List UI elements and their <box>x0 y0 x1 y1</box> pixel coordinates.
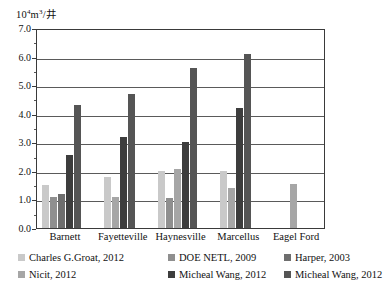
x-axis-category-label: Fayetteville <box>98 231 148 243</box>
bar <box>104 177 111 228</box>
y-axis-tick-label: 1.0 <box>1 195 31 205</box>
bar <box>158 171 165 228</box>
legend-item[interactable]: Micheal Wang, 2012 <box>284 269 384 280</box>
y-axis-tick-label: 2.0 <box>1 167 31 177</box>
bar <box>58 194 65 228</box>
y-axis-major-tick <box>32 229 36 230</box>
legend-item[interactable]: Micheal Wang, 2012 <box>168 269 284 280</box>
y-axis-unit-per-well: /井 <box>43 9 56 20</box>
bar <box>236 108 243 228</box>
bar <box>182 142 189 228</box>
bar <box>42 185 49 228</box>
chart-legend: Charles G.Groat, 2012DOE NETL, 2009Harpe… <box>18 249 354 283</box>
y-axis-unit-mantissa: 10 <box>16 9 27 20</box>
y-axis-unit-base: m <box>31 9 39 20</box>
y-axis-tick-label: 4.0 <box>1 110 31 120</box>
y-axis-tick-label: 3.0 <box>1 138 31 148</box>
y-axis-unit-label: 104m3/井 <box>16 6 56 21</box>
legend-label: Charles G.Groat, 2012 <box>29 252 124 263</box>
legend-swatch-icon <box>18 254 25 261</box>
bar-series-container <box>37 30 324 228</box>
bar <box>174 169 181 228</box>
bar <box>220 171 227 228</box>
legend-label: Micheal Wang, 2012 <box>179 269 266 280</box>
legend-item[interactable]: DOE NETL, 2009 <box>168 252 284 263</box>
x-axis-category-label: Marcellus <box>217 231 259 243</box>
x-axis-category-label: Eagel Ford <box>273 231 319 243</box>
bar <box>244 54 251 228</box>
legend-label: Nicit, 2012 <box>29 269 76 280</box>
legend-swatch-icon <box>284 271 291 278</box>
x-axis-category-label: Haynesville <box>155 231 205 243</box>
bar <box>190 68 197 228</box>
legend-swatch-icon <box>18 271 25 278</box>
bar <box>128 94 135 228</box>
y-axis-tick-label: 7.0 <box>1 24 31 34</box>
bar <box>120 137 127 228</box>
legend-swatch-icon <box>284 254 291 261</box>
legend-item[interactable]: Harper, 2003 <box>284 252 384 263</box>
legend-item[interactable]: Nicit, 2012 <box>18 269 168 280</box>
bar <box>74 105 81 228</box>
y-axis-tick-label: 5.0 <box>1 81 31 91</box>
bar <box>112 197 119 228</box>
legend-swatch-icon <box>168 254 175 261</box>
bar <box>166 198 173 228</box>
plot-area <box>36 29 325 229</box>
legend-swatch-icon <box>168 271 175 278</box>
bar <box>228 188 235 228</box>
x-axis-category-label: Barnett <box>49 231 80 243</box>
y-axis-tick-label: 0.0 <box>1 224 31 234</box>
legend-label: DOE NETL, 2009 <box>179 252 256 263</box>
y-axis-tick-label: 6.0 <box>1 53 31 63</box>
legend-item[interactable]: Charles G.Groat, 2012 <box>18 252 168 263</box>
legend-label: Harper, 2003 <box>295 252 350 263</box>
bar <box>290 184 297 228</box>
bar <box>50 197 57 228</box>
bar <box>66 155 73 228</box>
legend-label: Micheal Wang, 2012 <box>295 269 382 280</box>
